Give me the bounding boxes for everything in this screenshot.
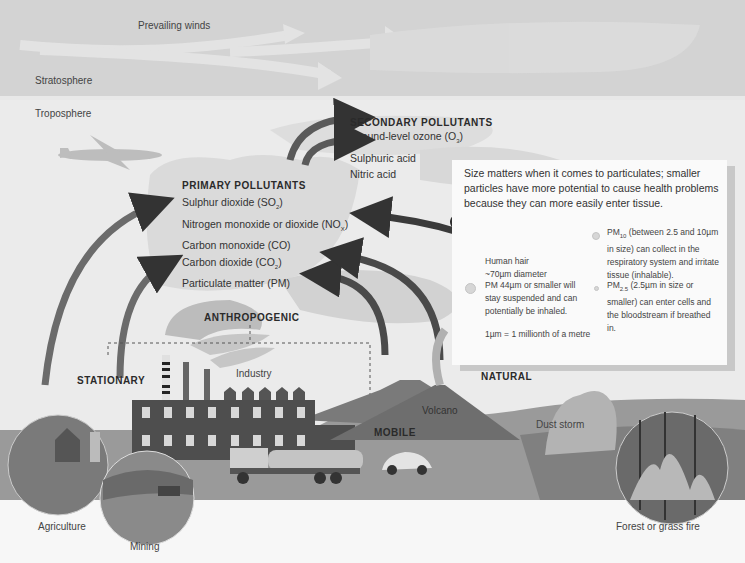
agriculture-label: Agriculture: [38, 521, 86, 532]
natural-label: NATURAL: [481, 371, 532, 382]
primary-item-co2: Carbon dioxide (CO2): [182, 254, 348, 276]
primary-item-so2: Sulphur dioxide (SO2): [182, 194, 348, 216]
pm10-dot-icon: [592, 232, 600, 240]
anthropogenic-label: ANTHROPOGENIC: [204, 312, 299, 323]
winds-label: Prevailing winds: [138, 20, 210, 31]
pm10-text: PM10 (between 2.5 and 10µm in size) can …: [607, 226, 719, 282]
mobile-label: MOBILE: [374, 427, 416, 438]
mining-label: Mining: [130, 541, 159, 552]
pm44-dot-icon: [465, 283, 476, 294]
pm25-dot-icon: [594, 286, 599, 291]
agriculture-circle: [8, 415, 108, 515]
pm44-text: PM 44µm or smaller will stay suspended a…: [485, 279, 585, 318]
dust-storm-label: Dust storm: [536, 419, 584, 430]
primary-item-co: Carbon monoxide (CO): [182, 237, 348, 254]
mining-circle: [100, 451, 194, 545]
particulates-intro: Size matters when it comes to particulat…: [464, 166, 724, 211]
hair-caption: Human hair ~70µm diameter: [485, 255, 547, 281]
stationary-label: STATIONARY: [77, 375, 145, 386]
secondary-title: SECONDARY POLLUTANTS: [350, 117, 493, 128]
primary-item-pm: Particulate matter (PM): [182, 275, 348, 292]
primary-pollutants: PRIMARY POLLUTANTS Sulphur dioxide (SO2)…: [182, 180, 348, 292]
troposphere-label: Troposphere: [35, 108, 91, 119]
airplane-icon: [58, 135, 162, 170]
particulates-panel: Size matters when it comes to particulat…: [452, 160, 727, 365]
volcano-label: Volcano: [422, 405, 458, 416]
forest-fire-label: Forest or grass fire: [616, 521, 700, 532]
pm25-text: PM2.5 (2.5µm in size or smaller) can ent…: [607, 279, 719, 335]
primary-title: PRIMARY POLLUTANTS: [182, 180, 348, 191]
unit-note: 1µm = 1 millionth of a metre: [485, 328, 590, 341]
primary-item-nox: Nitrogen monoxide or dioxide (NOX): [182, 216, 348, 238]
secondary-item-ozone: Ground-level ozone (O3): [350, 128, 493, 150]
stratosphere-label: Stratosphere: [35, 75, 92, 86]
industry-label: Industry: [236, 368, 272, 379]
wind-arrows: [20, 22, 700, 90]
